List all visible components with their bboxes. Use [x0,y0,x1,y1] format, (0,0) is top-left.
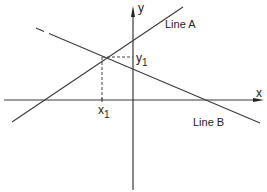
line-intersection-diagram: y x Line A Line B y1 x1 [0,0,267,192]
y-axis-arrow-icon [131,6,135,17]
line-b [36,28,44,32]
line-b-label: Line B [193,116,224,128]
line-b [49,34,260,124]
y-axis-label: y [138,1,144,15]
y1-label: y1 [136,51,148,68]
x1-label-sub: 1 [104,109,110,120]
line-a-label: Line A [165,18,196,30]
x-axis-label: x [256,86,262,100]
y1-label-sub: 1 [142,57,148,68]
x1-label: x1 [98,103,110,120]
